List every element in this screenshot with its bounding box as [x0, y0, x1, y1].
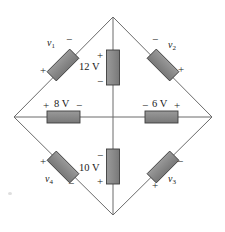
label-source10: 10 V [79, 163, 100, 174]
resistor-source12 [107, 50, 120, 85]
sign-source6-plus: + [174, 100, 180, 111]
sign-v2-minus: − [152, 34, 158, 45]
label-source6: 6 V [152, 99, 167, 110]
resistor-source6 [145, 111, 178, 123]
label-v2: v2 [168, 40, 176, 52]
resistor-source8 [47, 111, 80, 123]
sign-v4-plus: + [40, 156, 46, 167]
resistor-v1 [47, 49, 79, 81]
sign-v2-plus: + [178, 64, 184, 75]
sign-source10-minus: − [97, 150, 103, 161]
label-v4: v4 [45, 174, 53, 186]
sign-source8-plus: + [43, 100, 49, 111]
label-source12: 12 V [79, 62, 100, 73]
sign-source12-minus: − [97, 76, 103, 87]
sign-source8-minus: − [76, 100, 82, 111]
figure-canvas: v1 − + v2 − + 12 V + − 8 V + − 6 V − + v… [0, 0, 225, 232]
sign-v4-minus: − [68, 178, 74, 189]
sign-source12-plus: + [97, 50, 103, 61]
sign-v3-plus: + [152, 180, 158, 191]
sign-v1-plus: + [40, 65, 46, 76]
resistor-v2 [147, 49, 179, 81]
sign-source10-plus: + [97, 176, 103, 187]
sign-source6-minus: − [142, 100, 148, 111]
scan-artifact [8, 192, 12, 195]
sign-v1-minus: − [66, 34, 72, 45]
circuit-diagram [0, 0, 225, 232]
resistor-source10 [107, 149, 120, 184]
sign-v3-minus: − [177, 156, 183, 167]
label-v3: v3 [168, 174, 176, 186]
label-source8: 8 V [54, 99, 69, 110]
label-v1: v1 [47, 38, 55, 50]
wire-group-bridge [14, 17, 212, 215]
